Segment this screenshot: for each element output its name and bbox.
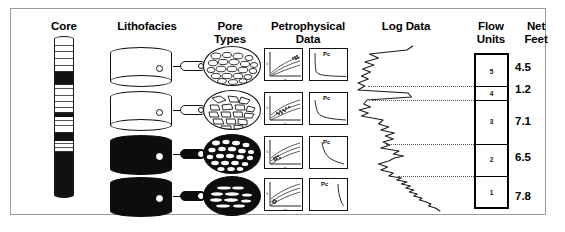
core-lamination [55, 147, 73, 148]
core-boundary [54, 112, 74, 113]
lithofacies-cylinder-2 [110, 91, 172, 131]
interparticle-pore-ellipse [203, 46, 261, 86]
core-band [54, 39, 74, 71]
svg-text:k: k [267, 106, 269, 110]
column-header-core: Core [28, 20, 100, 33]
plug-connector [173, 66, 180, 67]
vuggy-pore-ellipse [203, 176, 261, 216]
pc-axis-label: Pc [323, 139, 330, 145]
cylinder-bottom [110, 205, 172, 217]
flow-unit-label-4: 4 [476, 90, 507, 97]
core-lamination [55, 88, 73, 89]
core-lamination [55, 58, 73, 59]
core-lamination [55, 95, 73, 96]
core-boundary [54, 84, 74, 85]
flow-units-box: 5 4 3 2 1 [474, 53, 509, 209]
lithofacies-cylinder-1 [110, 47, 172, 87]
k-phi-crossplot-2: k φ [264, 92, 303, 125]
flow-unit-boundary-line-2-1 [398, 176, 474, 177]
flow-unit-label-3: 3 [476, 118, 507, 125]
plug-hole [156, 109, 163, 116]
core-bottom-ellipse [54, 192, 74, 198]
flow-unit-boundary-line-4-3 [372, 100, 474, 101]
net-feet-value-4: 1.2 [515, 83, 559, 95]
intercrystalline-pore-ellipse [203, 90, 261, 130]
k-phi-crossplot-3: k φ [264, 136, 303, 169]
core-band [54, 151, 74, 195]
core-lamination [55, 51, 73, 52]
flow-unit-boundary-line-3-2 [386, 144, 474, 145]
moldic-pore-ellipse [203, 134, 261, 174]
cylinder-bottom [110, 163, 172, 175]
pc-axis-label: Pc [323, 95, 330, 101]
flow-unit-label-5: 5 [476, 68, 507, 75]
core-band [54, 132, 74, 141]
plug-connector [173, 154, 180, 155]
core-boundary [54, 132, 74, 133]
core-lamination [55, 101, 73, 102]
capillary-pressure-plot-4 [309, 178, 348, 211]
pc-axis-label: Pc [321, 181, 328, 187]
k-phi-crossplot-1: k φ [264, 48, 303, 81]
flow-unit-label-2: 2 [476, 156, 507, 163]
core-boundary [54, 71, 74, 72]
core-lamination [55, 143, 73, 144]
core-lamination [55, 45, 73, 46]
plug-hole [156, 65, 163, 72]
plug-hole [156, 195, 163, 202]
svg-text:k: k [267, 192, 269, 196]
plug-connector [173, 110, 180, 111]
lithofacies-cylinder-4 [110, 177, 172, 217]
core-lamination [55, 120, 73, 121]
core-band [54, 71, 74, 84]
flow-unit-label-1: 1 [476, 189, 507, 196]
core-boundary [54, 151, 74, 152]
column-header-petrophysical-data: Petrophysical Data [258, 20, 358, 45]
log-data-track [356, 44, 456, 212]
pc-axis-label: Pc [323, 51, 330, 57]
column-header-net-feet: Net Feet [516, 20, 556, 45]
core-slab [54, 39, 74, 195]
core-lamination [55, 125, 73, 126]
net-feet-value-1: 7.8 [515, 190, 559, 202]
column-header-log-data: Log Data [363, 20, 449, 33]
plug-hole [156, 153, 163, 160]
flow-unit-boundary-line-5-4 [368, 86, 474, 87]
column-header-flow-units: Flow Units [466, 20, 516, 45]
core-lamination [55, 107, 73, 108]
flow-unit-divider [476, 176, 507, 177]
svg-text:φ: φ [284, 122, 287, 125]
k-phi-crossplot-4: k φ [264, 178, 303, 211]
cylinder-bottom [110, 75, 172, 87]
wireline-log-curve [356, 44, 456, 212]
diagram-canvas: Core Lithofacies Pore Types Petrophysica… [0, 0, 565, 232]
svg-text:φ: φ [284, 208, 287, 211]
net-feet-value-3: 7.1 [515, 115, 559, 127]
flow-unit-divider [476, 144, 507, 145]
lithofacies-cylinder-3 [110, 135, 172, 175]
column-header-lithofacies: Lithofacies [97, 20, 197, 33]
flow-unit-divider [476, 100, 507, 101]
column-header-pore-types: Pore Types [199, 20, 261, 45]
core-lamination [55, 65, 73, 66]
net-feet-value-5: 4.5 [515, 61, 559, 73]
svg-text:φ: φ [284, 78, 287, 81]
flow-unit-divider [476, 86, 507, 87]
plug-connector [173, 196, 180, 197]
svg-text:k: k [267, 62, 269, 66]
cylinder-bottom [110, 119, 172, 131]
svg-text:k: k [267, 150, 269, 154]
svg-text:φ: φ [284, 166, 287, 169]
net-feet-value-2: 6.5 [515, 151, 559, 163]
